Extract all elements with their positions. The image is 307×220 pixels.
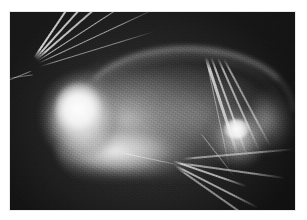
page-canvas <box>0 0 307 220</box>
vignette-layer <box>10 12 295 210</box>
radiograph-image <box>10 12 295 210</box>
figure-caption <box>10 212 295 220</box>
